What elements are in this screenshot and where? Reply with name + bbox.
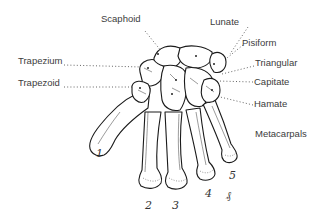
label-trapezoid: Trapezoid	[18, 77, 60, 88]
metacarpal-number-2: 2	[145, 200, 152, 212]
metacarpal-number-5: 5	[229, 170, 236, 182]
label-metacarpals: Metacarpals	[255, 128, 307, 139]
label-capitate: Capitate	[254, 76, 289, 87]
metacarpal-5	[203, 100, 237, 163]
leader-capitate	[218, 81, 253, 82]
artist-signature: ₰	[226, 190, 231, 202]
bones	[90, 46, 237, 189]
label-scaphoid: Scaphoid	[101, 13, 141, 24]
label-pisiform: Pisiform	[242, 37, 276, 48]
label-hamate: Hamate	[254, 98, 287, 109]
hand-bones-illustration	[0, 0, 322, 220]
hamate-bone	[201, 78, 220, 102]
metacarpal-number-1: 1	[96, 148, 103, 160]
hand-bones-diagram: Scaphoid Lunate Pisiform Trapezium Trian…	[0, 0, 322, 220]
pisiform-bone	[210, 52, 226, 72]
metacarpal-number-3: 3	[172, 200, 179, 212]
capitate-bone	[161, 65, 187, 110]
leader-scaphoid	[145, 31, 162, 52]
label-lunate: Lunate	[210, 16, 239, 27]
lunate-bone	[178, 46, 212, 68]
leader-triangular	[222, 66, 254, 74]
metacarpal-2	[139, 112, 162, 188]
leader-hamate	[216, 96, 253, 105]
label-triangular: Triangular	[255, 57, 297, 68]
metacarpal-3	[165, 112, 187, 189]
leader-trapezium	[64, 65, 142, 67]
metacarpal-number-4: 4	[205, 188, 212, 200]
label-trapezium: Trapezium	[18, 55, 63, 66]
